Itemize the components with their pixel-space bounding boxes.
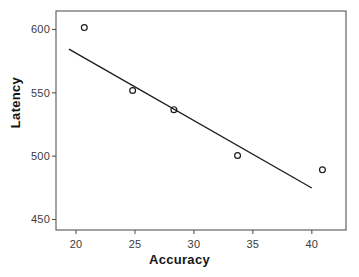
x-tick-label: 20 bbox=[70, 238, 83, 250]
plot-canvas bbox=[0, 0, 359, 277]
y-tick-label: 600 bbox=[14, 23, 50, 35]
y-tick-label: 500 bbox=[14, 150, 50, 162]
data-point-marker bbox=[320, 167, 326, 173]
data-point-marker bbox=[81, 25, 87, 31]
x-tick-label: 40 bbox=[305, 238, 318, 250]
y-tick-label: 450 bbox=[14, 213, 50, 225]
x-tick-label: 30 bbox=[188, 238, 201, 250]
scatter-plot-figure: 450500550600 2025303540 Accuracy Latency bbox=[0, 0, 359, 277]
y-axis-title: Latency bbox=[8, 63, 23, 143]
x-tick-label: 35 bbox=[247, 238, 260, 250]
tick-marks bbox=[52, 29, 312, 234]
x-tick-label: 25 bbox=[129, 238, 142, 250]
data-point-marker bbox=[130, 88, 136, 94]
x-axis-title: Accuracy bbox=[0, 252, 359, 267]
axes-frame bbox=[56, 11, 346, 230]
data-points bbox=[81, 25, 325, 173]
trend-line bbox=[69, 49, 312, 188]
data-point-marker bbox=[235, 153, 241, 159]
